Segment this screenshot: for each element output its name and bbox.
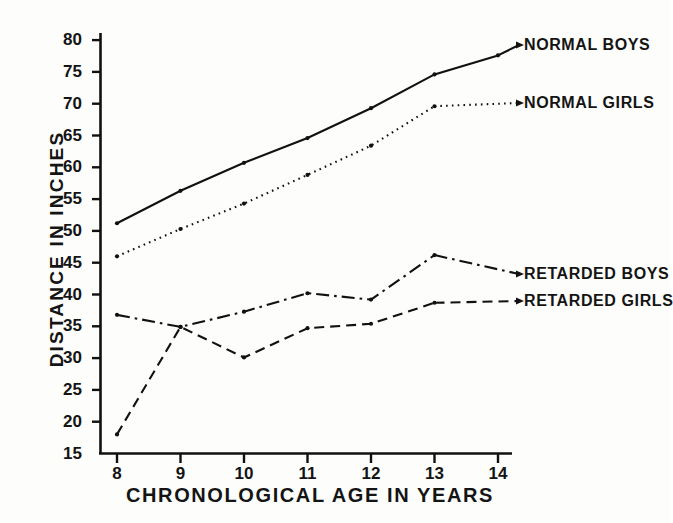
y-tick-label: 40 xyxy=(40,285,82,305)
data-point-marker xyxy=(369,322,373,326)
series-label-retarded-boys: RETARDED BOYS xyxy=(524,265,669,283)
y-tick-label: 35 xyxy=(40,316,82,336)
x-tick-label: 12 xyxy=(356,464,386,484)
data-point-marker xyxy=(242,161,246,165)
data-point-marker xyxy=(369,297,373,301)
data-point-marker xyxy=(305,136,309,140)
series-line xyxy=(117,255,435,327)
data-point-marker xyxy=(115,432,119,436)
y-tick-label: 80 xyxy=(40,30,82,50)
series-line xyxy=(117,303,435,435)
series-label-retarded-girls: RETARDED GIRLS xyxy=(524,292,673,310)
data-point-marker xyxy=(178,189,182,193)
x-tick-label: 9 xyxy=(166,464,196,484)
x-axis-title: CHRONOLOGICAL AGE IN YEARS xyxy=(60,484,560,507)
annotation-arrowhead xyxy=(516,41,524,48)
y-tick-label: 45 xyxy=(40,253,82,273)
data-point-marker xyxy=(432,72,436,76)
series-line xyxy=(117,106,435,256)
x-axis-ticks xyxy=(117,454,498,464)
x-tick-label: 8 xyxy=(102,464,132,484)
data-point-marker xyxy=(115,313,119,317)
data-point-marker xyxy=(305,326,309,330)
y-tick-label: 60 xyxy=(40,157,82,177)
annotation-leader-line xyxy=(498,45,519,55)
y-tick-label: 50 xyxy=(40,221,82,241)
y-tick-label: 70 xyxy=(40,94,82,114)
data-point-marker xyxy=(305,291,309,295)
y-tick-label: 75 xyxy=(40,62,82,82)
axes xyxy=(99,33,512,454)
data-point-marker xyxy=(305,173,309,177)
data-point-marker xyxy=(178,227,182,231)
data-point-marker xyxy=(115,254,119,258)
annotation-leader-line xyxy=(435,103,520,106)
y-tick-label: 65 xyxy=(40,126,82,146)
annotation-arrowhead xyxy=(516,297,524,304)
y-tick-label: 25 xyxy=(40,380,82,400)
y-tick-label: 20 xyxy=(40,412,82,432)
annotation-arrowhead xyxy=(516,270,524,277)
y-tick-label: 30 xyxy=(40,348,82,368)
data-point-markers xyxy=(115,53,500,436)
data-point-marker xyxy=(115,221,119,225)
annotation-leader-line xyxy=(435,301,520,303)
y-tick-label: 55 xyxy=(40,189,82,209)
series-label-normal-boys: NORMAL BOYS xyxy=(524,36,650,54)
data-point-marker xyxy=(369,144,373,148)
data-point-marker xyxy=(242,310,246,314)
data-point-marker xyxy=(178,325,182,329)
x-tick-label: 14 xyxy=(483,464,513,484)
data-series-group xyxy=(117,55,498,434)
data-point-marker xyxy=(369,106,373,110)
annotation-leader-lines xyxy=(435,41,525,304)
y-tick-label: 15 xyxy=(40,444,82,464)
data-point-marker xyxy=(242,201,246,205)
x-tick-label: 10 xyxy=(229,464,259,484)
x-tick-label: 13 xyxy=(420,464,450,484)
x-tick-label: 11 xyxy=(293,464,323,484)
series-label-normal-girls: NORMAL GIRLS xyxy=(524,94,654,112)
data-point-marker xyxy=(242,355,246,359)
annotation-leader-line xyxy=(435,255,520,274)
annotation-arrowhead xyxy=(516,99,524,106)
